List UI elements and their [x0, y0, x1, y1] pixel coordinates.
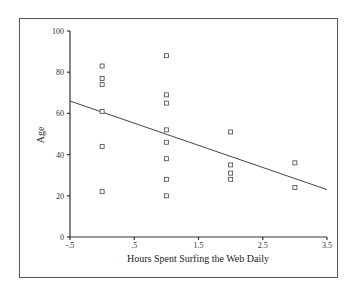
data-point-marker: [100, 109, 104, 113]
data-point-marker: [164, 54, 168, 58]
data-point-marker: [164, 140, 168, 144]
data-point-marker: [100, 190, 104, 194]
y-tick-label: 60: [56, 109, 64, 118]
y-tick-label: 20: [56, 192, 64, 201]
data-point-marker: [100, 144, 104, 148]
regression-line: [70, 101, 327, 190]
data-point-marker: [164, 93, 168, 97]
x-tick-label: .5: [131, 241, 137, 250]
data-point-marker: [100, 83, 104, 87]
data-point-marker: [293, 186, 297, 190]
axes: [70, 31, 327, 237]
data-point-marker: [164, 101, 168, 105]
data-point-marker: [229, 163, 233, 167]
data-point-marker: [100, 64, 104, 68]
x-tick-label: -.5: [66, 241, 75, 250]
y-tick-label: 0: [60, 233, 64, 242]
data-point-marker: [164, 177, 168, 181]
data-point-marker: [164, 128, 168, 132]
y-tick-label: 100: [52, 27, 64, 36]
data-point-marker: [100, 76, 104, 80]
scatter-plot: 020406080100-.5.51.52.53.5 Hours Spent S…: [0, 0, 356, 294]
fit-line: [70, 101, 327, 190]
x-tick-label: 2.5: [258, 241, 268, 250]
data-point-marker: [164, 157, 168, 161]
x-tick-label: 3.5: [322, 241, 332, 250]
tick-marks: 020406080100-.5.51.52.53.5: [52, 27, 332, 250]
data-point-marker: [229, 171, 233, 175]
y-tick-label: 40: [56, 151, 64, 160]
data-point-marker: [164, 194, 168, 198]
data-point-marker: [229, 130, 233, 134]
x-axis-title: Hours Spent Surfing the Web Daily: [127, 253, 269, 264]
data-points: [100, 54, 297, 198]
data-point-marker: [229, 177, 233, 181]
x-tick-label: 1.5: [194, 241, 204, 250]
y-axis-title: Age: [35, 126, 46, 143]
y-tick-label: 80: [56, 68, 64, 77]
data-point-marker: [293, 161, 297, 165]
